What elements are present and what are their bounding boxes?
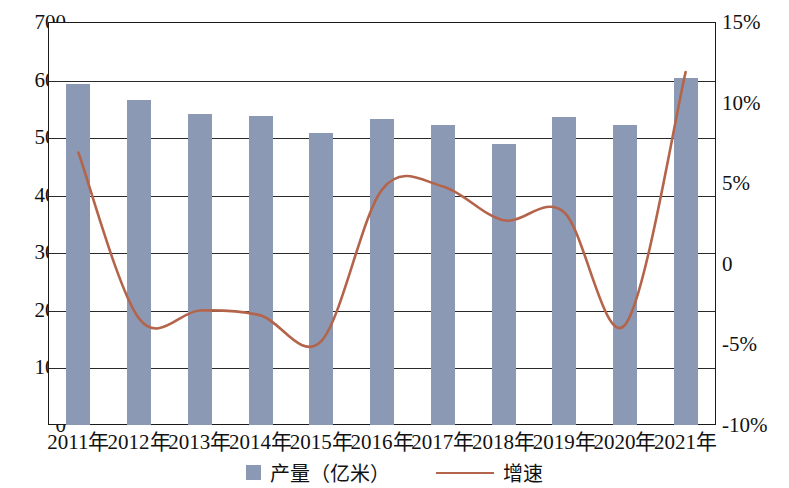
x-tick-label: 2021年 xyxy=(654,428,717,456)
gridline xyxy=(49,81,715,82)
x-tick-label: 2013年 xyxy=(168,428,231,456)
chart-legend: 产量（亿米） 增速 xyxy=(0,458,789,487)
y-tick-right: 5% xyxy=(722,173,784,194)
gridline xyxy=(49,196,715,197)
chart-container: 7006005004003002001000 15%10%5%0-5%-10% … xyxy=(0,0,789,488)
y-tick-right: -10% xyxy=(722,415,784,436)
gridline xyxy=(49,368,715,369)
plot-area xyxy=(48,22,716,425)
legend-item-bar: 产量（亿米） xyxy=(246,458,390,487)
legend-item-bar-label: 产量（亿米） xyxy=(270,458,390,487)
legend-line-swatch-icon xyxy=(436,472,494,474)
x-tick-label: 2011年 xyxy=(47,428,109,456)
x-tick-label: 2015年 xyxy=(290,428,353,456)
y-tick-right: -5% xyxy=(722,334,784,355)
x-tick-label: 2017年 xyxy=(411,428,474,456)
legend-item-line-label: 增速 xyxy=(503,458,543,487)
x-tick-label: 2020年 xyxy=(593,428,656,456)
x-tick-label: 2019年 xyxy=(533,428,596,456)
y-tick-right: 15% xyxy=(722,12,784,33)
gridline xyxy=(49,311,715,312)
gridline xyxy=(49,253,715,254)
x-axis-labels: 2011年2012年2013年2014年2015年2016年2017年2018年… xyxy=(48,428,716,458)
gridline xyxy=(49,138,715,139)
y-tick-right: 10% xyxy=(722,92,784,113)
legend-item-line: 增速 xyxy=(436,458,543,487)
x-tick-label: 2012年 xyxy=(108,428,171,456)
legend-bar-swatch-icon xyxy=(246,465,261,480)
x-tick-label: 2018年 xyxy=(472,428,535,456)
y-tick-right: 0 xyxy=(722,253,784,274)
x-tick-label: 2014年 xyxy=(229,428,292,456)
x-tick-label: 2016年 xyxy=(351,428,414,456)
